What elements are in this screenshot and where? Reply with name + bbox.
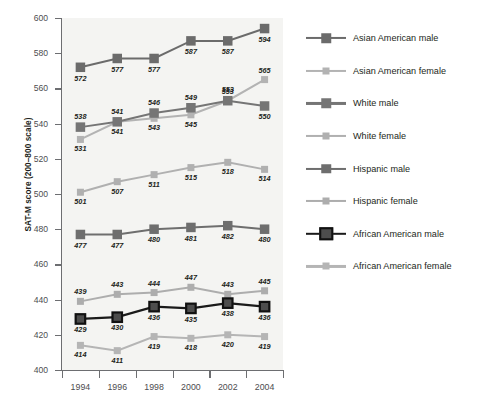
- y-tick-label: 500: [20, 189, 48, 199]
- legend-swatch-icon: [306, 227, 346, 241]
- data-point-label: 447: [185, 273, 197, 282]
- data-point-label: 419: [258, 342, 270, 351]
- legend-item-white-male[interactable]: White male: [306, 87, 481, 120]
- legend-item-asian-american-female[interactable]: Asian American female: [306, 55, 481, 88]
- y-tick-label: 460: [20, 259, 48, 269]
- legend-label: Asian American male: [353, 33, 438, 43]
- y-tick-label: 600: [20, 13, 48, 23]
- data-point-label: 511: [148, 180, 160, 189]
- data-point-label: 411: [111, 356, 123, 365]
- data-point-label: 420: [222, 340, 234, 349]
- data-point-label: 577: [111, 65, 123, 74]
- data-point-label: 436: [148, 313, 160, 322]
- legend-swatch-icon: [306, 129, 346, 143]
- data-point-label: 439: [74, 287, 86, 296]
- data-point-label: 501: [74, 197, 86, 206]
- y-tick-mark: [55, 194, 62, 195]
- y-tick-label: 420: [20, 330, 48, 340]
- x-tick-mark: [246, 371, 247, 378]
- legend-swatch-icon: [306, 194, 346, 208]
- chart-legend: Asian American maleAsian American female…: [306, 22, 481, 283]
- x-tick-mark: [99, 371, 100, 378]
- data-point-label: 541: [111, 127, 123, 136]
- data-point-label: 481: [185, 234, 197, 243]
- y-tick-mark: [55, 159, 62, 160]
- x-tick-mark: [283, 371, 284, 378]
- data-point-label: 480: [258, 235, 270, 244]
- data-point-label: 480: [148, 235, 160, 244]
- legend-item-african-american-female[interactable]: African American female: [306, 250, 481, 283]
- legend-marker: [319, 227, 333, 241]
- data-point-label: 444: [148, 279, 160, 288]
- data-point-label: 435: [185, 315, 197, 324]
- data-point-label: 443: [222, 280, 234, 289]
- y-tick-label: 560: [20, 83, 48, 93]
- y-tick-mark: [55, 335, 62, 336]
- data-point-label: 572: [74, 74, 86, 83]
- legend-item-hispanic-male[interactable]: Hispanic male: [306, 152, 481, 185]
- y-tick-mark: [55, 53, 62, 54]
- legend-marker: [323, 67, 330, 74]
- y-tick-label: 580: [20, 48, 48, 58]
- y-tick-label: 480: [20, 224, 48, 234]
- y-tick-mark: [55, 264, 62, 265]
- y-tick-mark: [55, 229, 62, 230]
- data-point-label: 577: [148, 65, 160, 74]
- y-tick-mark: [55, 88, 62, 89]
- legend-swatch-icon: [306, 64, 346, 78]
- data-point-label: 477: [111, 241, 123, 250]
- legend-marker: [321, 164, 331, 174]
- y-tick-label: 440: [20, 295, 48, 305]
- legend-swatch-icon: [306, 259, 346, 273]
- legend-label: Hispanic male: [353, 164, 410, 174]
- data-point-label: 545: [185, 120, 197, 129]
- legend-marker: [321, 34, 331, 44]
- legend-label: African American female: [353, 261, 452, 271]
- data-point-label: 429: [74, 325, 86, 334]
- legend-swatch-icon: [306, 31, 346, 45]
- legend-label: Asian American female: [353, 66, 446, 76]
- data-point-label: 482: [222, 232, 234, 241]
- data-point-label: 515: [185, 173, 197, 182]
- y-tick-mark: [55, 370, 62, 371]
- data-point-label: 587: [222, 47, 234, 56]
- data-point-label: 418: [185, 343, 197, 352]
- y-tick-mark: [55, 300, 62, 301]
- legend-label: White male: [353, 98, 398, 108]
- data-point-label: 594: [258, 35, 270, 44]
- data-point-label: 436: [258, 313, 270, 322]
- legend-label: African American male: [353, 229, 444, 239]
- legend-marker: [323, 133, 330, 140]
- legend-swatch-icon: [306, 96, 346, 110]
- legend-label: Hispanic female: [353, 196, 418, 206]
- data-point-label: 445: [258, 277, 270, 286]
- sat-math-score-line-chart: SAT-M score (200–800 scale) 600580560540…: [0, 0, 483, 410]
- data-point-label: 531: [74, 144, 86, 153]
- legend-item-white-female[interactable]: White female: [306, 120, 481, 153]
- data-point-label: 550: [258, 112, 270, 121]
- legend-marker: [323, 263, 330, 270]
- legend-item-african-american-male[interactable]: African American male: [306, 218, 481, 251]
- plot-area: [62, 18, 283, 370]
- data-point-label: 430: [111, 323, 123, 332]
- y-tick-mark: [55, 18, 62, 19]
- legend-item-asian-american-male[interactable]: Asian American male: [306, 22, 481, 55]
- legend-swatch-icon: [306, 162, 346, 176]
- x-tick-mark: [173, 371, 174, 378]
- x-tick-label: 2004: [243, 382, 287, 392]
- y-tick-label: 520: [20, 154, 48, 164]
- legend-label: White female: [353, 131, 406, 141]
- data-point-label: 443: [111, 280, 123, 289]
- data-point-label: 518: [222, 167, 234, 176]
- data-point-label: 514: [258, 174, 270, 183]
- data-point-label: 419: [148, 342, 160, 351]
- data-point-label: 553: [222, 85, 234, 94]
- y-tick-label: 540: [20, 119, 48, 129]
- y-axis-title: SAT-M score (200–800 scale): [24, 85, 33, 265]
- legend-marker: [323, 198, 330, 205]
- data-point-label: 549: [185, 93, 197, 102]
- data-point-label: 538: [74, 112, 86, 121]
- data-point-label: 438: [222, 309, 234, 318]
- x-tick-mark: [136, 371, 137, 378]
- legend-item-hispanic-female[interactable]: Hispanic female: [306, 185, 481, 218]
